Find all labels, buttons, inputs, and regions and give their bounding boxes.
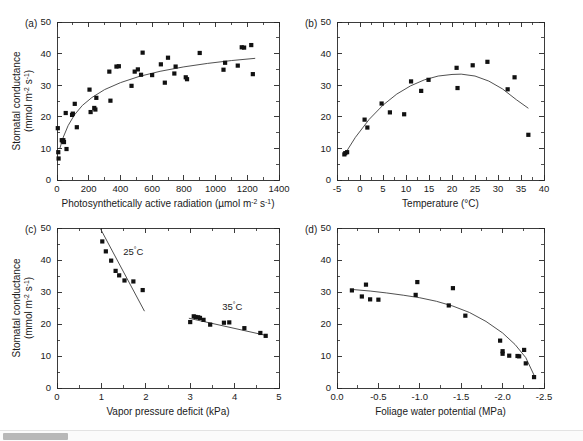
panel-c-xtick-label: 0 <box>54 391 59 402</box>
panel-b-data-point <box>471 63 475 67</box>
panel-d-ytick-label: 10 <box>320 350 331 361</box>
panel-a-data-point <box>236 64 240 68</box>
panel-d-data-point <box>350 288 354 292</box>
panel-b-data-point <box>455 86 459 90</box>
panel-a-data-point <box>87 88 91 92</box>
panel-d-plot-frame <box>337 228 544 388</box>
panel-d-data-point <box>463 314 467 318</box>
panel-b-xtick-label: 0 <box>357 183 362 194</box>
panel-d-xtick-label: -2.5 <box>536 391 552 402</box>
figure-container: 010203040500200400600800100012001400(a)P… <box>0 0 583 441</box>
panel-b-xtick-label: 15 <box>424 183 435 194</box>
panel-c: 0102030405001234525°C35°C(c)Vapor pressu… <box>25 222 282 417</box>
panel-b-data-point <box>455 66 459 70</box>
panel-b-ytick-label: 0 <box>326 174 331 185</box>
panel-d-data-point <box>532 375 536 379</box>
panel-b-xtick-label: 20 <box>447 183 458 194</box>
panel-c-xtick-label: 3 <box>188 391 193 402</box>
panel-d-xaxis-title: Foliage water potential (MPa) <box>375 406 506 417</box>
panel-a-xtick-label: 0 <box>54 183 59 194</box>
panel-a-data-point <box>251 72 255 76</box>
panel-a-data-point <box>117 64 121 68</box>
panel-b-ytick-label: 50 <box>320 16 331 27</box>
panel-a-data-point <box>56 126 60 130</box>
panel-c-data-point <box>264 334 268 338</box>
panel-c-ytick-label: 10 <box>40 350 51 361</box>
panel-c-data-point <box>122 278 126 282</box>
panel-b-data-point <box>506 87 510 91</box>
panel-a-data-point <box>71 112 75 116</box>
panel-b-data-point <box>365 125 369 129</box>
panel-b-ytick-label: 40 <box>320 48 331 59</box>
panel-d-ytick-label: 30 <box>320 286 331 297</box>
panel-d-fit-curve <box>352 289 534 375</box>
panel-d-ytick-label: 50 <box>320 222 331 233</box>
panel-c-data-point <box>114 269 118 273</box>
panel-c-panel-label: (c) <box>25 224 37 235</box>
four-panel-scatter-figure: 010203040500200400600800100012001400(a)P… <box>0 0 583 441</box>
panel-c-data-point <box>258 331 262 335</box>
panel-c-fit-line <box>100 228 144 311</box>
panel-a-data-point <box>198 51 202 55</box>
panel-a-data-point <box>64 147 68 151</box>
panel-c-xtick-label: 2 <box>143 391 148 402</box>
panel-a-xtick-label: 400 <box>112 183 128 194</box>
panel-b-xtick-label: 40 <box>539 183 550 194</box>
panel-b-ytick-label: 10 <box>320 143 331 154</box>
panel-a-data-point <box>136 67 140 71</box>
panel-b-data-point <box>485 60 489 64</box>
panel-a-data-point <box>73 102 77 106</box>
panel-a-data-point <box>185 77 189 81</box>
panel-c-xtick-label: 4 <box>232 391 237 402</box>
panel-a-data-point <box>56 150 60 154</box>
panel-d-data-point <box>517 354 521 358</box>
panel-c-ytick-label: 30 <box>40 286 51 297</box>
panel-a-xtick-label: 1400 <box>268 183 289 194</box>
panel-b-data-point <box>419 89 423 93</box>
panel-c-data-point <box>188 320 192 324</box>
panel-c-data-point <box>141 288 145 292</box>
panel-b-xtick-label: 10 <box>401 183 412 194</box>
panel-a-ytick-label: 40 <box>40 48 51 59</box>
yaxis-title-bottom-line2: (mmol m-2 s-1) <box>23 277 35 339</box>
panel-d-data-point <box>364 283 368 287</box>
panel-a-data-point <box>223 61 227 65</box>
panel-c-xaxis-title: Vapor pressure deficit (kPa) <box>106 406 229 417</box>
scrollbar-thumb[interactable] <box>3 433 68 440</box>
panel-a-data-point <box>150 73 154 77</box>
panel-a-xtick-label: 1000 <box>205 183 226 194</box>
panel-a-xaxis-title: Photosynthetically active radiation (µmo… <box>62 198 275 210</box>
panel-d-xtick-label: -1.5 <box>453 391 469 402</box>
panel-b-xtick-label: 35 <box>516 183 527 194</box>
panel-c-data-point <box>117 273 121 277</box>
panel-b-data-point <box>363 118 367 122</box>
panel-a-fit-curve <box>60 58 255 148</box>
panel-b-data-point <box>345 150 349 154</box>
horizontal-scrollbar[interactable] <box>0 430 583 441</box>
panel-a-data-point <box>89 110 93 114</box>
panel-b-xtick-label: 30 <box>493 183 504 194</box>
panel-a-ytick-label: 20 <box>40 111 51 122</box>
panel-b: 01020304050-50510152025303540(b)Temperat… <box>305 16 549 209</box>
panel-d-ytick-label: 20 <box>320 318 331 329</box>
panel-a-data-point <box>75 125 79 129</box>
panel-a-data-point <box>107 70 111 74</box>
panel-a-ytick-label: 50 <box>40 16 51 27</box>
panel-d-data-point <box>498 339 502 343</box>
yaxis-title-top: Stomatal conductance(mmol m-2 s-1) <box>11 51 34 150</box>
panel-c-xtick-label: 5 <box>276 391 281 402</box>
panel-d-xtick-label: -2.0 <box>494 391 510 402</box>
panel-a-xtick-label: 600 <box>144 183 160 194</box>
panel-c-data-point <box>104 249 108 253</box>
panel-a-xtick-label: 200 <box>81 183 97 194</box>
yaxis-title-top-line1: Stomatal conductance <box>11 51 22 150</box>
panel-a-panel-label: (a) <box>25 18 37 29</box>
panel-d-data-point <box>447 303 451 307</box>
panel-b-data-point <box>526 133 530 137</box>
panel-b-data-point <box>388 110 392 114</box>
panel-b-data-point <box>380 101 384 105</box>
panel-d-data-point <box>368 297 372 301</box>
panel-a-ytick-label: 30 <box>40 80 51 91</box>
panel-d-data-point <box>501 352 505 356</box>
panel-b-ytick-label: 20 <box>320 111 331 122</box>
